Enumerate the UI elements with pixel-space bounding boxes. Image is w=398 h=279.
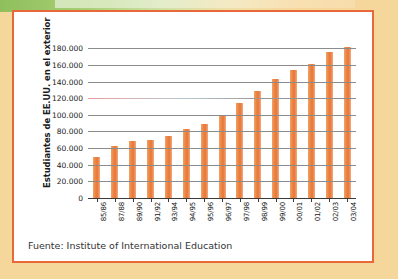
source-note: Fuente: Institute of International Educa… <box>28 240 232 251</box>
bar <box>219 115 226 198</box>
x-axis-tick-label: 87/88 <box>118 202 126 221</box>
x-axis-tick-label: 91/92 <box>154 202 162 221</box>
x-axis-tick-labels: 85/8687/8889/9091/9293/9494/9595/9696/97… <box>88 202 356 236</box>
x-axis-tick-label: 02/03 <box>332 202 340 221</box>
gridline: 120.000 <box>88 98 356 99</box>
y-axis-tick-label: 160.000 <box>52 60 83 69</box>
x-axis-tick-label: 93/94 <box>171 202 179 221</box>
y-axis-tick-label: 60.000 <box>57 144 83 153</box>
x-axis-tick-label: 98/99 <box>261 202 269 221</box>
bar <box>326 52 333 198</box>
y-axis-tick-label: 0 <box>78 194 83 203</box>
bar <box>344 47 351 198</box>
y-axis-tick-label: 100.000 <box>52 110 83 119</box>
y-axis-tick-label: 180.000 <box>52 44 83 53</box>
gridline: 100.000 <box>88 115 356 116</box>
bar <box>129 141 136 198</box>
chart-card: Estudiantes de EE.UU. en el exterior 020… <box>12 10 374 263</box>
x-axis-tick-label: 99/00 <box>279 202 287 221</box>
bar <box>165 136 172 198</box>
x-axis-tick-label: 94/95 <box>189 202 197 221</box>
chart-area: Estudiantes de EE.UU. en el exterior 020… <box>14 12 372 230</box>
x-axis-tick-label: 01/02 <box>314 202 322 221</box>
bar <box>272 79 279 198</box>
y-axis-tick-label: 140.000 <box>52 77 83 86</box>
y-axis-tick-label: 80.000 <box>57 127 83 136</box>
bar-series <box>88 40 356 198</box>
x-axis-tick-label: 85/86 <box>100 202 108 221</box>
x-axis-tick-label: 00/01 <box>296 202 304 221</box>
bar <box>111 146 118 198</box>
bar <box>236 103 243 198</box>
x-axis-tick-label: 89/90 <box>136 202 144 221</box>
gridline: 140.000 <box>88 82 356 83</box>
gridline: 60.000 <box>88 148 356 149</box>
y-axis-tick-label: 120.000 <box>52 94 83 103</box>
gridline: 160.000 <box>88 65 356 66</box>
bar <box>183 129 190 198</box>
bar <box>290 70 297 198</box>
bar <box>93 157 100 198</box>
plot-region: 020.00040.00060.00080.000100.000120.0001… <box>88 40 356 198</box>
gridline: 20.000 <box>88 181 356 182</box>
decorative-top-highlight <box>55 0 355 8</box>
y-axis-tick-label: 40.000 <box>57 160 83 169</box>
figure-page: Estudiantes de EE.UU. en el exterior 020… <box>0 0 398 279</box>
x-axis-tick-label: 03/04 <box>350 202 358 221</box>
x-axis-tick-label: 95/96 <box>207 202 215 221</box>
x-axis-tick-label: 96/97 <box>225 202 233 221</box>
gridline: 40.000 <box>88 165 356 166</box>
y-axis-tick-label: 20.000 <box>57 177 83 186</box>
gridline: 180.000 <box>88 48 356 49</box>
gridline: 80.000 <box>88 131 356 132</box>
bar <box>201 124 208 198</box>
x-axis-tick-label: 97/98 <box>243 202 251 221</box>
